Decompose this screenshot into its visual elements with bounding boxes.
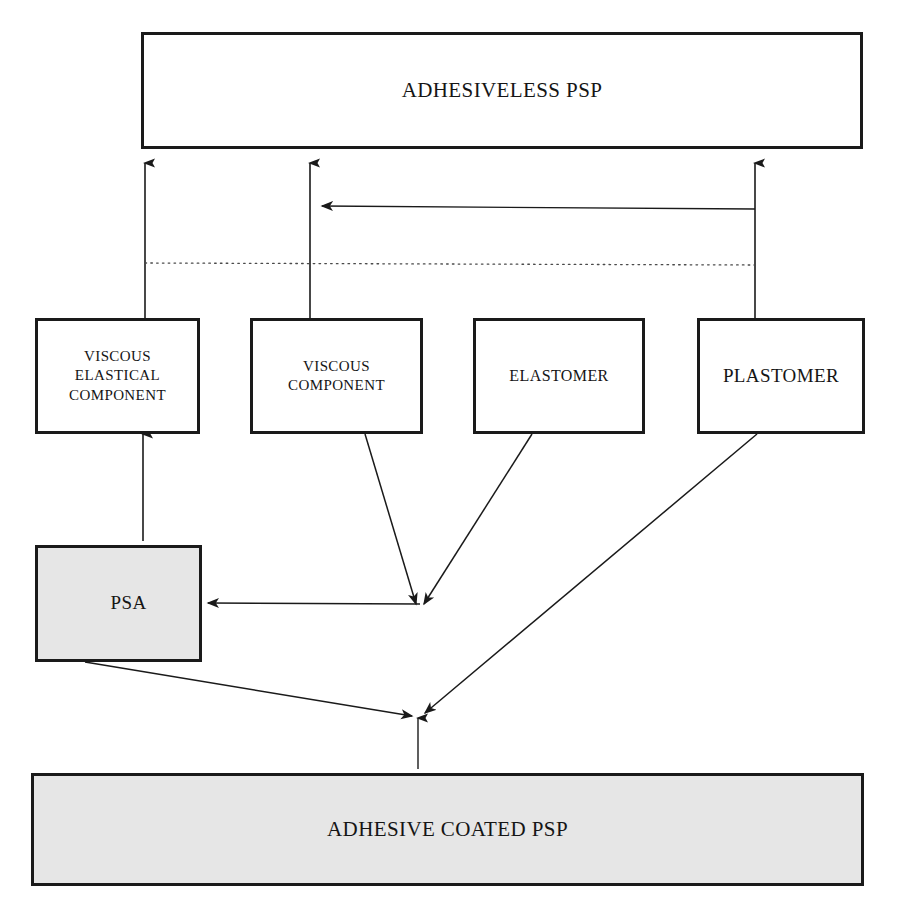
node-viscous-elastical-component[interactable]: VISCOUS ELASTICAL COMPONENT [35, 318, 200, 434]
node-psa[interactable]: PSA [35, 545, 202, 662]
node-plastomer-label: PLASTOMER [723, 364, 839, 388]
edge-dotted-link [145, 263, 755, 265]
edge-viscous-component-to-psa-junction [365, 434, 416, 604]
node-elastomer-label: ELASTOMER [509, 366, 608, 386]
edge-elastomer-to-psa-junction [424, 434, 532, 604]
edge-psa-to-bottom-junction [85, 662, 412, 716]
node-plastomer[interactable]: PLASTOMER [697, 318, 865, 434]
node-adhesive-coated-psp[interactable]: ADHESIVE COATED PSP [31, 773, 864, 886]
node-psa-label: PSA [110, 591, 146, 615]
node-viscous-component-label: VISCOUS COMPONENT [288, 357, 385, 395]
node-elastomer[interactable]: ELASTOMER [473, 318, 645, 434]
edge-plastomer-to-bottom-junction [425, 434, 757, 713]
node-adhesiveless-psp[interactable]: ADHESIVELESS PSP [141, 32, 863, 149]
edge-plastomer-to-viscous-component [322, 206, 755, 209]
node-adhesiveless-psp-label: ADHESIVELESS PSP [402, 77, 603, 104]
diagram-canvas: ADHESIVELESS PSP VISCOUS ELASTICAL COMPO… [0, 0, 897, 919]
node-viscous-component[interactable]: VISCOUS COMPONENT [250, 318, 423, 434]
node-viscous-elastical-component-label: VISCOUS ELASTICAL COMPONENT [69, 347, 166, 405]
node-adhesive-coated-psp-label: ADHESIVE COATED PSP [327, 816, 568, 843]
edge-junction-to-psa [208, 603, 420, 604]
